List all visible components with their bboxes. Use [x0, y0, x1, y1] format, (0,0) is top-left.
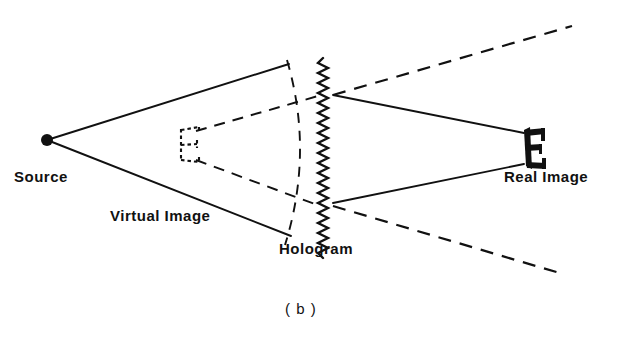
source-point — [41, 134, 53, 146]
label-hologram: Hologram — [279, 240, 353, 257]
hologram-plate — [318, 58, 328, 258]
real-image-e-glyph — [524, 127, 546, 169]
figure-page: Source Virtual Image Hologram Real Image… — [0, 0, 623, 350]
virtual-cone-group — [196, 96, 320, 206]
ray-source-upper — [47, 64, 289, 140]
ray-real-upper — [333, 95, 524, 133]
ray-virtual-lower — [333, 206, 563, 274]
virtual-image-e-glyph — [181, 127, 199, 162]
figure-caption: ( b ) — [285, 300, 317, 317]
label-virtual-image: Virtual Image — [110, 207, 210, 224]
label-source: Source — [14, 168, 68, 185]
label-real-image: Real Image — [504, 168, 588, 185]
virtual-cone-lower — [196, 160, 320, 206]
ray-real-lower — [333, 164, 524, 203]
converging-ray-group — [333, 95, 524, 203]
wavefront-arc — [285, 60, 300, 245]
virtual-cone-upper — [196, 96, 318, 131]
ray-virtual-upper — [333, 26, 572, 95]
